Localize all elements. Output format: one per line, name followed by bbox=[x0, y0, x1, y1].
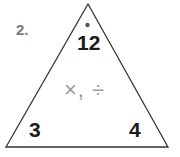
bottom-left-value: 3 bbox=[29, 118, 41, 142]
problem-number: 2. bbox=[16, 21, 29, 38]
top-dot-icon bbox=[85, 23, 89, 27]
top-value: 12 bbox=[77, 31, 100, 55]
bottom-right-value: 4 bbox=[129, 118, 141, 142]
operations-label: ×, ÷ bbox=[64, 77, 105, 103]
